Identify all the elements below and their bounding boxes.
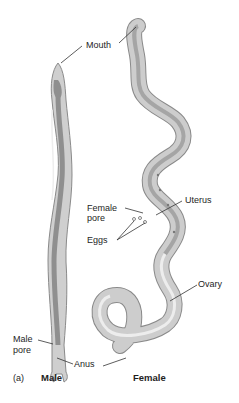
eggs-illustration xyxy=(133,217,147,224)
male-pore-label-line2: pore xyxy=(13,345,31,355)
uterus-label: Uterus xyxy=(185,195,212,205)
anus-label: Anus xyxy=(74,359,95,369)
female-caption: Female xyxy=(133,373,166,383)
female-worm xyxy=(100,26,184,346)
ovary-label: Ovary xyxy=(198,279,222,289)
male-pore-label-line1: Male xyxy=(13,334,33,344)
panel-label: (a) xyxy=(13,373,24,383)
eggs-label: Eggs xyxy=(87,235,108,245)
female-pore-label-line1: Female xyxy=(87,203,117,213)
mouth-label: Mouth xyxy=(86,40,111,50)
female-pore-label-line2: pore xyxy=(87,213,105,223)
male-worm xyxy=(48,63,72,382)
male-caption: Male xyxy=(41,373,62,383)
